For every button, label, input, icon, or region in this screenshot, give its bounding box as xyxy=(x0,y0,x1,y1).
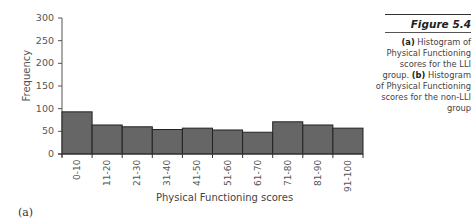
panel-label: (a) xyxy=(18,206,33,219)
caption-marker-a: (a) xyxy=(402,37,415,47)
histogram-bar xyxy=(273,122,303,154)
x-tick-label: 0-10 xyxy=(72,160,82,180)
x-tick-label: 91-100 xyxy=(343,160,353,192)
histogram-bar xyxy=(303,125,333,154)
histogram-bar xyxy=(92,125,122,154)
x-tick-label: 51-60 xyxy=(223,160,233,186)
x-tick-label: 61-70 xyxy=(253,160,263,186)
histogram-bar xyxy=(182,128,212,154)
caption-marker-b: (b) xyxy=(412,70,426,80)
x-tick-label: 11-20 xyxy=(102,160,112,186)
x-tick-label: 21-30 xyxy=(132,160,142,186)
histogram-bar xyxy=(213,130,243,154)
x-axis-label: Physical Functioning scores xyxy=(156,192,293,203)
histogram-bar xyxy=(152,130,182,154)
histogram-bar xyxy=(243,132,273,154)
histogram-bar xyxy=(122,127,152,154)
x-tick-label: 31-40 xyxy=(162,160,172,186)
histogram-bar xyxy=(333,128,363,154)
figure-number: Figure 5.4 xyxy=(373,15,471,32)
histogram-bar xyxy=(62,112,92,154)
caption-text: (a) Histogram of Physical Functioning sc… xyxy=(373,33,471,114)
figure-caption: Figure 5.4 (a) Histogram of Physical Fun… xyxy=(373,14,471,114)
x-tick-label: 71-80 xyxy=(283,160,293,186)
x-tick-label: 81-90 xyxy=(313,160,323,186)
x-tick-label: 41-50 xyxy=(192,160,202,186)
